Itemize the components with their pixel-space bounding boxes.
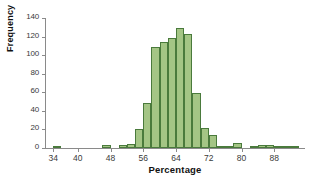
histogram-bar xyxy=(209,135,217,148)
x-tick-mark xyxy=(176,148,177,152)
y-tick-mark xyxy=(42,74,45,75)
x-tick-label: 48 xyxy=(100,153,122,163)
y-axis-line xyxy=(45,18,46,149)
histogram-bar xyxy=(201,128,209,148)
x-tick-label: 80 xyxy=(231,153,253,163)
y-tick-label: 120 xyxy=(26,31,39,40)
x-tick-label: 88 xyxy=(263,153,285,163)
histogram-bar xyxy=(192,93,200,148)
histogram-bar xyxy=(160,42,168,148)
y-tick-label: 140 xyxy=(26,12,39,21)
x-tick-label: 34 xyxy=(42,153,64,163)
y-tick-mark xyxy=(42,148,45,149)
y-tick-mark xyxy=(42,55,45,56)
y-axis-title: Frequency xyxy=(5,5,15,52)
histogram-bar xyxy=(151,47,159,148)
y-tick-label: 40 xyxy=(31,105,40,114)
histogram-bar xyxy=(176,28,184,148)
x-tick-mark xyxy=(53,148,54,152)
y-tick-label: 0 xyxy=(35,142,39,151)
x-tick-mark xyxy=(274,148,275,152)
x-tick-label: 56 xyxy=(132,153,154,163)
y-tick-label: 20 xyxy=(31,123,40,132)
y-tick-label: 80 xyxy=(31,68,40,77)
y-tick-label: 60 xyxy=(31,86,40,95)
x-tick-mark xyxy=(143,148,144,152)
y-tick-mark xyxy=(42,111,45,112)
x-tick-label: 40 xyxy=(67,153,89,163)
y-tick-label: 100 xyxy=(26,49,39,58)
x-axis-line xyxy=(45,148,305,149)
histogram-bar xyxy=(143,103,151,148)
x-tick-mark xyxy=(111,148,112,152)
x-tick-mark xyxy=(209,148,210,152)
y-tick-mark xyxy=(42,129,45,130)
x-tick-mark xyxy=(78,148,79,152)
histogram-chart: 020406080100120140 3440485664728088 Freq… xyxy=(0,0,313,186)
histogram-bar xyxy=(168,38,176,148)
x-tick-label: 72 xyxy=(198,153,220,163)
plot-area xyxy=(45,18,303,148)
histogram-bar xyxy=(184,34,192,148)
histogram-bar xyxy=(135,129,143,148)
y-tick-mark xyxy=(42,18,45,19)
x-axis-title: Percentage xyxy=(45,164,305,175)
x-tick-mark xyxy=(242,148,243,152)
x-tick-label: 64 xyxy=(165,153,187,163)
y-tick-mark xyxy=(42,92,45,93)
y-tick-mark xyxy=(42,37,45,38)
